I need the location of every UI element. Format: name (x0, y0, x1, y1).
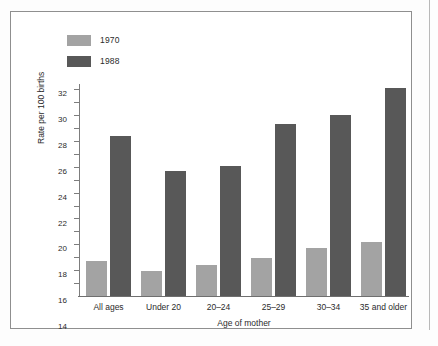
y-tick-label: 26 (58, 168, 67, 176)
bar-group: 25–29 (251, 84, 296, 296)
x-axis-line (78, 296, 409, 297)
y-tick-mark: 20 (74, 167, 79, 168)
legend-label-1988: 1988 (100, 57, 120, 66)
x-tick-label: 35 and older (324, 303, 438, 312)
y-tick-mark: 22 (74, 154, 79, 155)
y-tick-label: 22 (58, 220, 67, 228)
bar-group: 35 and older (361, 84, 406, 296)
legend-item-1970[interactable]: 1970 (67, 33, 197, 48)
bar-1970-20–24[interactable] (196, 265, 217, 296)
y-tick-label: 28 (58, 142, 67, 150)
bar-1970-under-20[interactable] (141, 271, 162, 296)
legend-swatch-1970 (67, 35, 91, 46)
plot-area: 2468101214161820222426283032 All agesUnd… (79, 84, 409, 296)
legend-item-1988[interactable]: 1988 (67, 54, 197, 69)
bar-group: All ages (86, 84, 131, 296)
y-tick-mark: 24 (74, 141, 79, 142)
legend-swatch-1988 (67, 56, 91, 67)
bar-1988-under-20[interactable] (165, 171, 186, 296)
bar-1970-all-ages[interactable] (86, 261, 107, 296)
bar-group: 20–24 (196, 84, 241, 296)
legend-label-1970: 1970 (100, 36, 120, 45)
y-tick-mark: 30 (74, 102, 79, 103)
bar-1988-20–24[interactable] (220, 166, 241, 296)
bar-1970-25–29[interactable] (251, 258, 272, 296)
y-tick-mark: 28 (74, 115, 79, 116)
y-tick-label: 14 (58, 323, 67, 331)
y-tick-mark: 8 (74, 244, 79, 245)
y-axis-line (79, 84, 80, 296)
bar-group: 30–34 (306, 84, 351, 296)
x-axis-title: Age of mother (79, 319, 409, 328)
y-tick-mark: 18 (74, 180, 79, 181)
y-tick-label: 30 (58, 116, 67, 124)
y-axis-title: Rate per 100 births (37, 72, 46, 144)
y-tick-mark: 6 (74, 257, 79, 258)
y-tick-mark: 32 (74, 89, 79, 90)
y-tick-mark: 16 (74, 193, 79, 194)
y-tick-mark: 12 (74, 218, 79, 219)
bar-1988-35-and-older[interactable] (385, 88, 406, 296)
bar-1970-30–34[interactable] (306, 248, 327, 296)
y-tick-label: 20 (58, 245, 67, 253)
page-background: 1970 1988 Rate per 100 births 2468101214… (0, 0, 438, 346)
chart-legend: 1970 1988 (67, 33, 197, 75)
y-tick-mark: 10 (74, 231, 79, 232)
bar-1970-35-and-older[interactable] (361, 242, 382, 296)
bar-1988-25–29[interactable] (275, 124, 296, 296)
figure-frame: 1970 1988 Rate per 100 births 2468101214… (10, 11, 412, 329)
y-tick-mark: 4 (74, 270, 79, 271)
y-tick-mark: 2 (74, 283, 79, 284)
y-tick-label: 18 (58, 271, 67, 279)
bar-1988-30–34[interactable] (330, 115, 351, 296)
y-tick-label: 24 (58, 194, 67, 202)
bar-1988-all-ages[interactable] (110, 136, 131, 296)
scan-edge-line (429, 0, 430, 330)
y-tick-label: 32 (58, 90, 67, 98)
bar-group: Under 20 (141, 84, 186, 296)
y-tick-mark: 14 (74, 206, 79, 207)
y-tick-mark: 26 (74, 128, 79, 129)
